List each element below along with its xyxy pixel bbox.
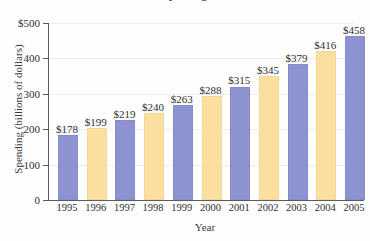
bar-value-label: $288 xyxy=(190,85,232,96)
bar-value-label: $345 xyxy=(247,65,289,76)
bar-1998 xyxy=(144,113,164,200)
bar-value-label: $379 xyxy=(276,53,318,64)
bar-1997 xyxy=(115,120,135,200)
bar-2005 xyxy=(345,36,365,200)
chart-title: Spending xyxy=(0,0,370,1)
bar-value-label: $458 xyxy=(333,25,370,36)
bar-2003 xyxy=(288,64,308,200)
bar-1999 xyxy=(173,105,193,200)
bar-2004 xyxy=(316,51,336,200)
y-tick-label: $500 xyxy=(0,18,40,29)
y-tick-label: 200 xyxy=(0,124,40,135)
x-axis-title: Year xyxy=(45,221,365,233)
y-tick-label: 0 xyxy=(0,195,40,206)
bar-value-label: $416 xyxy=(304,40,346,51)
bar-2001 xyxy=(230,87,250,201)
y-tick-label: 300 xyxy=(0,89,40,100)
y-tick-label: 100 xyxy=(0,160,40,171)
bar-1995 xyxy=(58,135,78,200)
bar-value-label: $315 xyxy=(218,75,260,86)
x-axis-line xyxy=(48,200,364,201)
bar-2000 xyxy=(202,96,222,200)
bar-chart-figure: Spending Spending (billions of dollars) … xyxy=(0,0,370,241)
bar-1996 xyxy=(87,128,107,200)
y-tick-label: 400 xyxy=(0,53,40,64)
bar-2002 xyxy=(259,76,279,200)
x-tick-label: 2005 xyxy=(337,203,370,214)
